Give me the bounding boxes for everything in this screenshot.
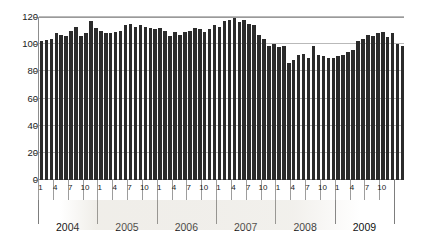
- bar: [139, 25, 143, 180]
- bar: [124, 25, 128, 180]
- bar: [84, 33, 88, 180]
- bar: [233, 18, 237, 180]
- bar: [238, 22, 242, 180]
- bar: [64, 36, 68, 180]
- bar: [292, 60, 296, 180]
- bar: [183, 32, 187, 180]
- year-separator-end: [394, 180, 395, 224]
- bar: [163, 31, 167, 180]
- bar: [242, 20, 246, 180]
- bar: [252, 25, 256, 180]
- year-label-2006: 2006: [162, 221, 210, 233]
- bar: [45, 40, 49, 180]
- bar: [267, 46, 271, 180]
- bar: [346, 52, 350, 180]
- bar: [297, 55, 301, 180]
- bar: [198, 29, 202, 180]
- bar: [104, 33, 108, 180]
- bar: [99, 31, 103, 180]
- bar: [312, 46, 316, 180]
- bar: [40, 41, 44, 180]
- bar: [327, 58, 331, 180]
- bar: [356, 41, 360, 180]
- bar: [386, 37, 390, 180]
- bar: [50, 39, 54, 180]
- bar: [317, 55, 321, 180]
- bar: [218, 27, 222, 180]
- bar: [351, 50, 355, 180]
- bar: [158, 28, 162, 180]
- bar: [129, 24, 133, 180]
- bar: [109, 33, 113, 180]
- bar: [361, 39, 365, 180]
- bar: [257, 35, 261, 180]
- bar: [69, 31, 73, 180]
- year-label-2007: 2007: [222, 221, 270, 233]
- bar: [208, 29, 212, 180]
- bar: [203, 32, 207, 180]
- bar: [144, 27, 148, 180]
- bar: [336, 56, 340, 180]
- bar: [272, 44, 276, 180]
- bar: [302, 54, 306, 180]
- bar: [287, 63, 291, 180]
- bar: [401, 46, 405, 180]
- bar: [55, 33, 59, 180]
- bar: [366, 35, 370, 180]
- bar: [332, 58, 336, 180]
- bar: [341, 55, 345, 180]
- bar-series: [39, 18, 404, 180]
- bar: [173, 32, 177, 180]
- bar: [59, 35, 63, 180]
- bar: [119, 31, 123, 180]
- bar: [282, 46, 286, 180]
- bar: [396, 44, 400, 180]
- plot-area: [38, 17, 404, 180]
- bar: [381, 32, 385, 180]
- bar: [79, 36, 83, 180]
- bar: [134, 27, 138, 180]
- bar: [371, 36, 375, 180]
- month-label-10: 10: [373, 183, 391, 193]
- bar: [322, 56, 326, 180]
- bar: [188, 31, 192, 180]
- bar: [193, 28, 197, 180]
- bar: [223, 21, 227, 180]
- bar: [213, 25, 217, 180]
- year-label-2004: 2004: [44, 221, 92, 233]
- bar: [247, 24, 251, 180]
- y-axis: 020406080100120: [0, 0, 38, 182]
- year-label-2008: 2008: [281, 221, 329, 233]
- bar: [149, 28, 153, 180]
- bar-chart: 020406080100120 147102004147102005147102…: [0, 0, 422, 252]
- year-label-2005: 2005: [103, 221, 151, 233]
- bar: [74, 27, 78, 180]
- bar: [262, 39, 266, 180]
- bar: [114, 32, 118, 180]
- bar: [94, 28, 98, 180]
- bar: [178, 35, 182, 180]
- bar: [307, 58, 311, 180]
- bar: [168, 36, 172, 180]
- bar: [153, 29, 157, 180]
- bar: [391, 33, 395, 180]
- bar: [228, 20, 232, 180]
- bar: [277, 47, 281, 180]
- bar: [376, 33, 380, 180]
- gridline-120: [39, 16, 404, 17]
- x-axis: 1471020041471020051471020061471020071471…: [38, 180, 404, 252]
- year-label-2009: 2009: [340, 221, 388, 233]
- bar: [89, 21, 93, 180]
